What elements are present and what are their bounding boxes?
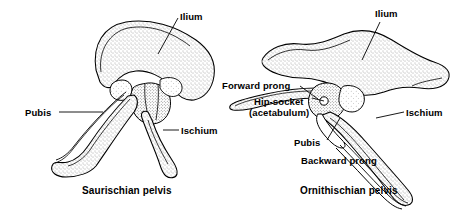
saurischian-pelvis-caption: Saurischian pelvis	[82, 185, 172, 196]
ornithischian-backward-prong-label: Backward prong	[301, 155, 377, 166]
saurischian-pelvis-drawing	[52, 18, 215, 178]
ornithischian-postacetabular-bone	[339, 85, 364, 112]
ornithischian-ischium-label: Ischium	[406, 107, 443, 118]
ornithischian-hip-socket-label: Hip-socket	[254, 96, 304, 107]
pelvis-comparison-figure: Ilium Pubis Ischium Saurischian pelvis I…	[0, 0, 466, 214]
saurischian-pubis-shape	[52, 95, 138, 177]
ornithischian-pubis-label: Pubis	[294, 137, 320, 148]
ornithischian-ischium-leader	[376, 112, 404, 118]
pelvis-diagram-svg	[0, 0, 466, 214]
ornithischian-ilium-label: Ilium	[375, 8, 398, 19]
ornithischian-pelvis-caption: Ornithischian pelvis	[300, 185, 398, 196]
saurischian-ischium-label: Ischium	[181, 125, 218, 136]
saurischian-ilium-label: Ilium	[180, 11, 203, 22]
ornithischian-acetabulum-label: (acetabulum)	[249, 107, 309, 118]
saurischian-pubis-label: Pubis	[25, 107, 51, 118]
ornithischian-forward-prong-label: Forward prong	[222, 80, 290, 91]
